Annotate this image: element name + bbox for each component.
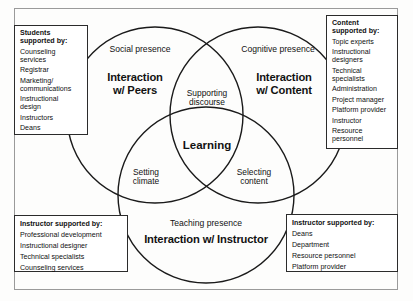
content-header-line1: Content: [332, 19, 393, 27]
instructor-left-box-header: Instructor supported by:: [20, 220, 123, 228]
item-line: Platform provider: [332, 106, 393, 114]
list-item: Instructor: [332, 117, 393, 125]
item-line: designers: [332, 56, 393, 64]
item-line: Instructional: [332, 48, 393, 56]
label-interaction-with-instructor: Interaction w/ Instructor: [131, 233, 281, 246]
item-line: personnel: [332, 135, 393, 143]
list-item: Instructors: [20, 114, 83, 122]
label-learning-center: Learning: [166, 139, 248, 152]
list-item: Project manager: [332, 96, 393, 104]
list-item: Counseling services: [20, 48, 83, 64]
interaction-peers-line2: w/ Peers: [88, 84, 182, 97]
item-line: Instructor: [332, 117, 393, 125]
students-header-line1: Students: [20, 29, 83, 37]
content-header-line2: supported by:: [332, 27, 393, 35]
list-item: Platform provider: [292, 263, 393, 271]
students-supported-by-box: Students supported by: Counseling servic…: [14, 25, 88, 135]
interaction-content-line2: w/ Content: [234, 84, 334, 97]
students-box-list: Counseling services Registrar Marketing/…: [20, 48, 83, 133]
list-item: Platform provider: [332, 106, 393, 114]
item-line: Registrar: [20, 66, 83, 74]
list-item: Instructional designer: [20, 242, 123, 250]
item-line: Instructors: [20, 114, 83, 122]
item-line: Marketing/: [20, 77, 83, 85]
label-interaction-with-content: Interaction w/ Content: [234, 71, 334, 96]
list-item: Technical specialists: [20, 253, 123, 261]
students-box-header: Students supported by:: [20, 29, 83, 45]
list-item: Registrar: [20, 66, 83, 74]
setting-climate-line2: climate: [116, 177, 176, 186]
list-item: Administration: [332, 85, 393, 93]
list-item: Counseling services: [20, 264, 123, 272]
item-line: Administration: [332, 85, 393, 93]
item-line: Project manager: [332, 96, 393, 104]
list-item: Department: [292, 241, 393, 249]
instructor-left-box-list: Professional development Instructional d…: [20, 231, 123, 272]
instructor-right-box-header: Instructor supported by:: [292, 219, 393, 227]
list-item: Professional development: [20, 231, 123, 239]
item-line: Technical: [332, 67, 393, 75]
content-box-header: Content supported by:: [332, 19, 393, 35]
item-line: communications: [20, 85, 83, 93]
item-line: design: [20, 103, 83, 111]
label-social-presence: Social presence: [95, 45, 185, 55]
label-teaching-presence: Teaching presence: [156, 219, 256, 229]
list-item: Instructional designers: [332, 48, 393, 64]
label-supporting-discourse: Supporting discourse: [172, 89, 242, 108]
item-line: Topic experts: [332, 38, 393, 46]
list-item: Topic experts: [332, 38, 393, 46]
supporting-discourse-line2: discourse: [172, 98, 242, 107]
instructor-supported-by-box-left: Instructor supported by: Professional de…: [14, 215, 128, 272]
item-line: specialists: [332, 75, 393, 83]
content-supported-by-box: Content supported by: Topic experts Inst…: [326, 15, 398, 149]
item-line: Deans: [20, 124, 83, 132]
item-line: services: [20, 56, 83, 64]
instructor-supported-by-box-right: Instructor supported by: Deans Departmen…: [286, 214, 398, 272]
instructor-right-box-list: Deans Department Resource personnel Plat…: [292, 230, 393, 271]
list-item: Deans: [20, 124, 83, 132]
interaction-content-line1: Interaction: [234, 71, 334, 84]
list-item: Instructional design: [20, 95, 83, 111]
circle-teaching-presence: [118, 107, 294, 283]
item-line: Instructional: [20, 95, 83, 103]
students-header-line2: supported by:: [20, 37, 83, 45]
interaction-instructor-line1: Interaction w/ Instructor: [131, 233, 281, 246]
label-cognitive-presence: Cognitive presence: [228, 45, 328, 55]
interaction-peers-line1: Interaction: [88, 71, 182, 84]
content-box-list: Topic experts Instructional designers Te…: [332, 38, 393, 144]
item-line: Resource: [332, 127, 393, 135]
venn-diagram-figure: Social presence Cognitive presence Teach…: [0, 0, 413, 301]
label-selecting-content: Selecting content: [222, 168, 286, 187]
list-item: Deans: [292, 230, 393, 238]
label-setting-climate: Setting climate: [116, 168, 176, 187]
selecting-content-line2: content: [222, 177, 286, 186]
list-item: Marketing/ communications: [20, 77, 83, 93]
item-line: Counseling: [20, 48, 83, 56]
label-interaction-with-peers: Interaction w/ Peers: [88, 71, 182, 96]
list-item: Technical specialists: [332, 67, 393, 83]
list-item: Resource personnel: [292, 252, 393, 260]
list-item: Resource personnel: [332, 127, 393, 143]
